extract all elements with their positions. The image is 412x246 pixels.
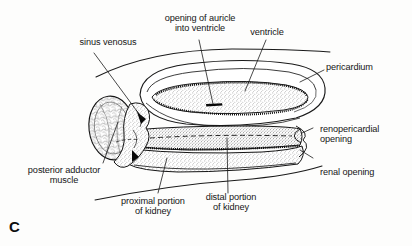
label-ventricle: ventricle [240, 27, 294, 37]
label-distal-portion-of-kidney: distal portion of kidney [190, 192, 272, 213]
anatomical-figure: sinus venosus opening of auricle into ve… [0, 0, 412, 246]
label-renopericardial-opening: renopericardial opening [320, 124, 408, 145]
label-renal-opening: renal opening [320, 167, 406, 177]
label-sinus-venosus: sinus venosus [68, 37, 148, 47]
label-posterior-adductor-muscle: posterior adductor muscle [14, 165, 114, 186]
ventricle-band [152, 81, 308, 114]
label-pericardium: pericardium [326, 62, 402, 72]
label-proximal-portion-of-kidney: proximal portion of kidney [106, 196, 200, 217]
kidney-tube [128, 126, 303, 172]
figure-panel-letter: C [9, 218, 20, 235]
leader-renopericardial [302, 128, 313, 133]
